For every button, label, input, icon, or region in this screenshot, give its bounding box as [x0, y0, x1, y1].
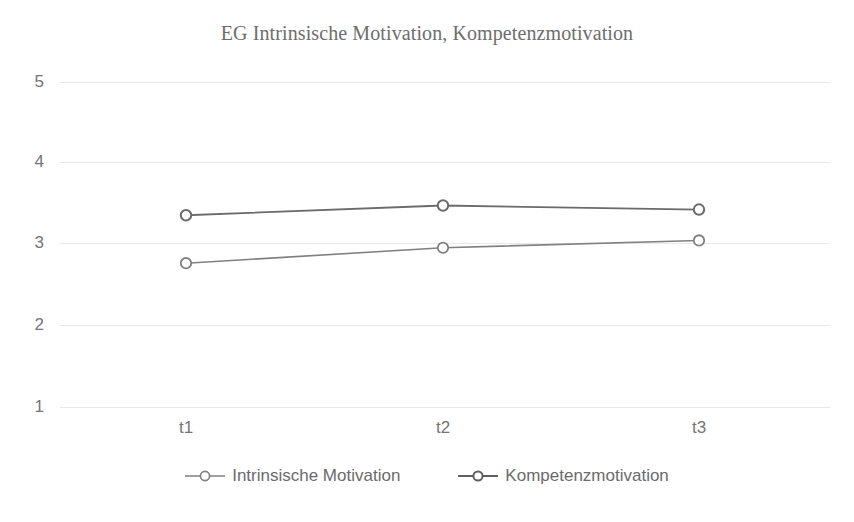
gridline-3 — [60, 243, 830, 244]
legend-label: Intrinsische Motivation — [232, 466, 400, 486]
gridline-1 — [60, 407, 830, 408]
y-tick-label-4: 4 — [35, 152, 44, 172]
gridline-5 — [60, 82, 830, 83]
x-tick-label-t2: t2 — [436, 418, 450, 438]
legend-marker-icon — [185, 469, 225, 483]
legend-item-kompetenzmotivation[interactable]: Kompetenzmotivation — [458, 466, 668, 486]
x-axis: t1 t2 t3 — [0, 418, 854, 448]
x-tick-label-t3: t3 — [692, 418, 706, 438]
legend-marker-icon — [458, 469, 498, 483]
plot-area — [60, 82, 830, 408]
chart-legend: Intrinsische Motivation Kompetenzmotivat… — [0, 466, 854, 486]
gridline-2 — [60, 325, 830, 326]
y-tick-label-5: 5 — [35, 72, 44, 92]
legend-item-intrinsische-motivation[interactable]: Intrinsische Motivation — [185, 466, 400, 486]
chart-container: EG Intrinsische Motivation, Kompetenzmot… — [0, 0, 854, 522]
y-tick-label-2: 2 — [35, 315, 44, 335]
legend-label: Kompetenzmotivation — [505, 466, 668, 486]
chart-title: EG Intrinsische Motivation, Kompetenzmot… — [0, 22, 854, 45]
y-tick-label-3: 3 — [35, 233, 44, 253]
gridline-4 — [60, 162, 830, 163]
x-tick-label-t1: t1 — [179, 418, 193, 438]
y-tick-label-1: 1 — [35, 397, 44, 417]
